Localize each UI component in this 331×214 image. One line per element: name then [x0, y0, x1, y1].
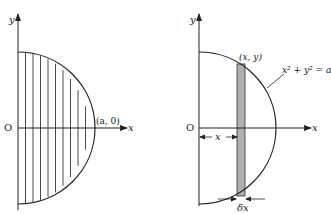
right-point-label: (x, y): [239, 53, 262, 62]
right-x-axis-label: x: [312, 123, 318, 133]
shaded-strip: [237, 64, 245, 196]
distance-label: x: [215, 132, 221, 142]
left-figure: [18, 14, 127, 210]
right-origin-label: O: [186, 123, 194, 133]
left-point-label: (a, 0): [96, 117, 120, 126]
equation-label: x² + y² = a: [282, 66, 331, 75]
equation-leader: [267, 74, 284, 88]
left-y-axis-label: y: [9, 15, 15, 25]
left-origin-label: O: [4, 123, 12, 133]
left-x-axis-label: x: [128, 123, 134, 133]
right-y-axis-label: y: [190, 15, 196, 25]
right-figure: [199, 14, 311, 206]
width-label: δx: [237, 203, 249, 213]
